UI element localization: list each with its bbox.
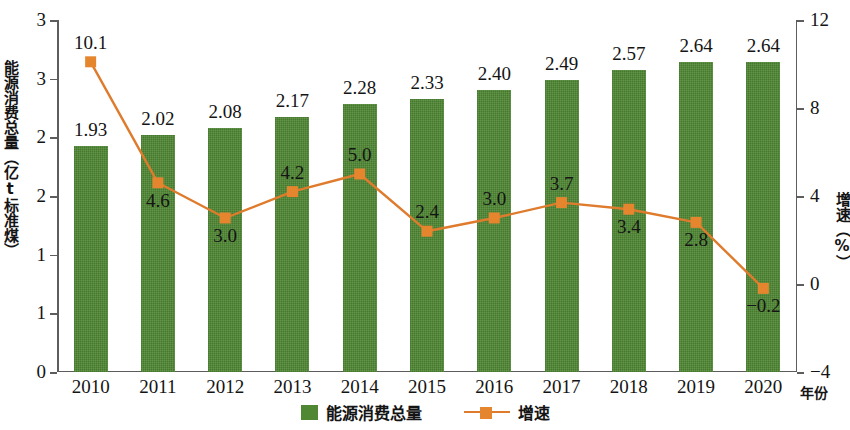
y-axis-left-tick — [50, 255, 57, 257]
y-axis-right-title: 增速（%） — [834, 192, 849, 270]
y-axis-left-tick-label: 3 — [37, 9, 47, 31]
line-value-label: −0.2 — [746, 295, 780, 317]
y-axis-right-tick — [797, 372, 804, 374]
x-axis-tick-label: 2011 — [139, 376, 176, 398]
line-value-label: 10.1 — [74, 32, 107, 54]
line-marker[interactable] — [220, 213, 231, 224]
y-axis-left-title: 能源消费总量（亿t标准煤） — [2, 60, 17, 258]
line-marker[interactable] — [758, 283, 769, 294]
y-axis-right-tick-label: −4 — [810, 361, 830, 383]
line-marker[interactable] — [152, 177, 163, 188]
y-axis-right-tick-label: 4 — [810, 185, 820, 207]
y-axis-left-tick — [50, 196, 57, 198]
x-axis-tick-label: 2019 — [677, 376, 715, 398]
legend-label: 增速 — [518, 400, 550, 424]
legend-item[interactable]: 增速 — [464, 400, 550, 424]
line-value-label: 3.7 — [550, 173, 574, 195]
line-marker[interactable] — [422, 226, 433, 237]
legend-label: 能源消费总量 — [326, 400, 422, 424]
y-axis-right-tick-label: 8 — [810, 97, 820, 119]
growth-rate-line — [91, 62, 764, 289]
x-axis-tick-label: 2017 — [543, 376, 581, 398]
x-axis-tick-label: 2014 — [341, 376, 379, 398]
legend-item[interactable]: 能源消费总量 — [301, 400, 422, 424]
y-axis-right-tick-label: 0 — [810, 273, 820, 295]
y-axis-right-tick — [797, 196, 804, 198]
y-axis-left-tick — [50, 79, 57, 81]
line-marker[interactable] — [691, 217, 702, 228]
y-axis-left-tick-label: 2 — [37, 126, 47, 148]
chart-container: 能源消费总量（亿t标准煤） 增速（%） 年份 3322110 12840−4 1… — [0, 0, 850, 430]
y-axis-left-tick-label: 2 — [37, 185, 47, 207]
line-value-label: 4.2 — [281, 162, 305, 184]
line-value-label: 4.6 — [146, 190, 170, 212]
y-axis-left-tick-label: 3 — [37, 67, 47, 89]
y-axis-right-tick — [797, 20, 804, 22]
line-marker[interactable] — [85, 56, 96, 67]
y-axis-left-tick-label: 0 — [37, 361, 47, 383]
y-axis-left-tick — [50, 137, 57, 139]
x-axis-tick-label: 2020 — [744, 376, 782, 398]
x-axis-tick-label: 2010 — [72, 376, 110, 398]
y-axis-right-tick — [797, 284, 804, 286]
y-axis-left-tick-label: 1 — [37, 302, 47, 324]
y-axis-right-tick-label: 12 — [810, 9, 829, 31]
line-value-label: 3.0 — [213, 225, 237, 247]
x-axis-tick-label: 2012 — [206, 376, 244, 398]
line-marker[interactable] — [489, 213, 500, 224]
line-value-label: 3.4 — [617, 216, 641, 238]
y-axis-left-tick — [50, 20, 57, 22]
line-value-label: 3.0 — [482, 188, 506, 210]
chart-legend: 能源消费总量增速 — [0, 400, 850, 424]
growth-rate-markers — [85, 56, 769, 294]
x-axis-tick-label: 2013 — [273, 376, 311, 398]
line-marker[interactable] — [354, 169, 365, 180]
line-value-label: 5.0 — [348, 144, 372, 166]
legend-bar-swatch-icon — [301, 405, 318, 420]
line-value-label: 2.4 — [415, 201, 439, 223]
x-axis-tick-label: 2018 — [610, 376, 648, 398]
line-value-label: 2.8 — [684, 229, 708, 251]
legend-line-swatch-icon — [464, 405, 510, 419]
x-axis-tick-label: 2015 — [408, 376, 446, 398]
x-axis-tick-label: 2016 — [475, 376, 513, 398]
line-marker[interactable] — [623, 204, 634, 215]
y-axis-right-tick — [797, 108, 804, 110]
y-axis-left-tick — [50, 372, 57, 374]
line-marker[interactable] — [556, 197, 567, 208]
line-marker[interactable] — [287, 186, 298, 197]
y-axis-left-tick-label: 1 — [37, 243, 47, 265]
x-axis-title: 年份 — [800, 382, 828, 402]
plot-area: 3322110 12840−4 1.932.022.082.172.282.33… — [57, 20, 797, 372]
y-axis-left-tick — [50, 313, 57, 315]
